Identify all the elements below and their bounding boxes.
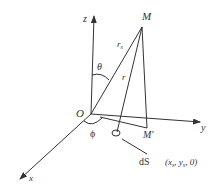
theta-arc [92, 74, 109, 80]
coordinate-diagram: z M rs θ r O y ϕ M' dS (xs, ys, 0) x [0, 0, 222, 189]
O-Mprime-line [100, 117, 147, 128]
origin-label: O [76, 107, 84, 119]
M-label: M [141, 10, 152, 22]
r-line [117, 27, 142, 132]
y-axis [91, 114, 200, 122]
dS-element [112, 130, 120, 136]
z-label: z [82, 13, 87, 24]
M-projection-line [142, 27, 147, 128]
r0-label: rs [117, 39, 124, 50]
coords-label: (xs, ys, 0) [165, 157, 197, 168]
dS-label: dS [139, 156, 150, 167]
x-axis [20, 114, 91, 179]
phi-label: ϕ [90, 128, 95, 139]
y-label: y [200, 122, 206, 133]
M-prime-label: M' [142, 129, 154, 140]
r-label: r [122, 72, 126, 82]
x-label: x [28, 173, 33, 183]
phi-arc [84, 118, 102, 124]
theta-label: θ [97, 61, 102, 72]
dS-leader [122, 139, 147, 154]
z-axis [91, 16, 94, 114]
